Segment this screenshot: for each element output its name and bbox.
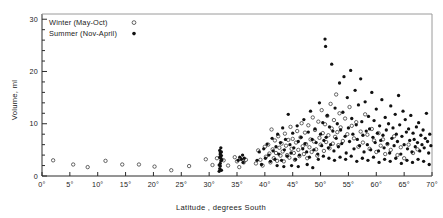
summer-data-point [272,149,275,152]
summer-data-point [269,160,272,163]
summer-data-point [326,114,329,117]
summer-data-point [340,142,343,145]
summer-data-point [262,147,265,150]
summer-data-point [377,161,380,164]
summer-data-point [427,151,430,154]
y-tick-labels: 0102030 [30,15,38,181]
x-tick-label: 5° [66,180,73,189]
summer-data-point [243,157,246,160]
summer-data-point [299,136,302,139]
summer-data-point [294,158,297,161]
summer-data-point [321,121,324,124]
winter-data-point [278,146,281,149]
summer-data-point [394,157,397,160]
summer-data-point [367,115,370,118]
winter-data-point [72,163,75,166]
summer-data-point [385,128,388,131]
winter-data-point [233,155,236,158]
summer-data-point [339,128,342,131]
summer-data-point [394,113,397,116]
summer-data-point [396,140,399,143]
winter-data-point [379,144,382,147]
winter-data-point [137,163,140,166]
summer-data-point [375,107,378,110]
winter-data-point [226,164,229,167]
summer-data-point [282,165,285,168]
summer-data-point [371,136,374,139]
summer-data-point [218,163,221,166]
summer-data-point [290,164,293,167]
x-tick-label: 55° [343,180,354,189]
series-winter-points [51,93,419,172]
summer-data-point [360,120,363,123]
summer-data-point [267,153,270,156]
summer-data-point [283,148,286,151]
summer-data-point [274,145,277,148]
summer-data-point [220,169,223,172]
plot-frame [42,14,432,176]
winter-data-point [254,162,257,165]
summer-data-point [317,158,320,161]
summer-data-point [322,139,325,142]
summer-data-point [277,152,280,155]
summer-data-point [380,98,383,101]
summer-data-point [416,141,419,144]
summer-data-point [287,113,290,116]
summer-data-point [428,133,431,136]
summer-data-point [308,156,311,159]
summer-data-point [395,133,398,136]
x-tick-label: 65° [398,180,409,189]
summer-data-point [220,150,223,153]
summer-data-point [309,110,312,113]
summer-data-point [411,132,414,135]
summer-data-point [348,140,351,143]
summer-data-point [358,144,361,147]
summer-data-point [281,126,284,129]
chart-legend: Winter (May-Oct)Summer (Nov-April) [49,18,136,38]
summer-data-point [399,152,402,155]
summer-data-point [405,159,408,162]
winter-data-point [238,165,241,168]
summer-data-point [413,138,416,141]
winter-data-point [407,143,410,146]
summer-data-point [387,122,390,125]
x-tick-label: 35° [231,180,242,189]
summer-data-point [376,132,379,135]
axis-ticks [42,19,432,176]
summer-data-point [426,140,429,143]
summer-data-point [386,142,389,145]
summer-data-point [398,123,401,126]
summer-data-point [418,149,421,152]
summer-data-point [372,119,375,122]
summer-data-point [275,164,278,167]
summer-data-point [402,143,405,146]
summer-data-point [363,100,366,103]
winter-data-point [307,124,310,127]
x-tick-label: 25° [176,180,187,189]
summer-data-point [333,106,336,109]
summer-data-point [414,145,417,148]
summer-data-point [401,110,404,113]
summer-data-point [407,127,410,130]
plot-canvas: 0°5°10°15°20°25°30°35°40°45°50°55°60°65°… [0,0,443,218]
summer-data-point [428,163,431,166]
winter-data-point [359,130,362,133]
winter-data-point [366,133,369,136]
winter-data-point [361,141,364,144]
summer-data-point [350,117,353,120]
winter-data-point [289,125,292,128]
summer-data-point [298,153,301,156]
summer-data-point [323,37,326,40]
summer-data-point [390,137,393,140]
summer-data-point [291,132,294,135]
summer-data-point [324,45,327,48]
summer-data-point [258,150,261,153]
winter-data-point [300,122,303,125]
summer-data-point [349,69,352,72]
winter-data-point [338,112,341,115]
summer-data-point [273,158,276,161]
winter-data-point [211,163,214,166]
x-tick-label: 15° [120,180,131,189]
summer-data-point [292,146,295,149]
summer-data-point [344,158,347,161]
